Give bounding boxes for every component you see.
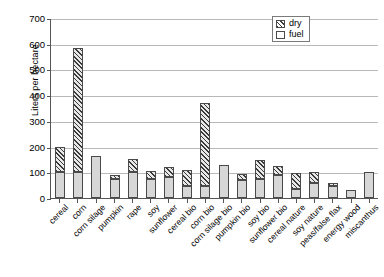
bar-segment-dry [73, 48, 83, 173]
bar-slot [360, 19, 378, 198]
bar-segment-fuel [364, 172, 374, 198]
bar-segment-dry [291, 173, 301, 189]
y-axis-tick-label: 500 [29, 65, 45, 75]
y-axis-tick-label: 600 [29, 40, 45, 50]
x-axis-tick-label: rape [125, 203, 144, 222]
plot-area: 0100200300400500600700 [50, 19, 378, 199]
bar-segment-dry [309, 172, 319, 182]
bar-segment-fuel [219, 165, 229, 198]
y-axis-tick-label: 100 [29, 168, 45, 178]
bar-slot [51, 19, 69, 198]
bar-slot [124, 19, 142, 198]
stacked-bar[interactable] [328, 183, 338, 198]
bar-segment-dry [55, 147, 65, 172]
bar-slot [269, 19, 287, 198]
bar-slot [324, 19, 342, 198]
bar-segment-fuel [237, 180, 247, 199]
bar-segment-fuel [182, 186, 192, 198]
bar-slot [287, 19, 305, 198]
bar-segment-dry [128, 159, 138, 172]
stacked-bar[interactable] [309, 172, 319, 198]
bar-segment-fuel [291, 189, 301, 198]
bar-segment-dry [255, 160, 265, 179]
stacked-bar[interactable] [255, 160, 265, 198]
bar-segment-dry [200, 103, 210, 187]
legend-label-fuel: fuel [289, 30, 304, 39]
bar-segment-fuel [309, 183, 319, 198]
bar-slot [178, 19, 196, 198]
bar-series-container [51, 19, 378, 198]
y-axis-tick-label: 400 [29, 91, 45, 101]
legend-item-dry: dry [276, 19, 304, 28]
legend-swatch-fuel-icon [276, 31, 285, 39]
stacked-bar[interactable] [91, 156, 101, 198]
stacked-bar[interactable] [200, 103, 210, 198]
bar-slot [87, 19, 105, 198]
stacked-bar[interactable] [273, 166, 283, 198]
bar-segment-fuel [128, 172, 138, 198]
legend-item-fuel: fuel [276, 30, 304, 39]
bar-segment-fuel [255, 179, 265, 198]
bar-slot [342, 19, 360, 198]
y-axis-title: Liters per hectare [30, 0, 40, 160]
stacked-bar[interactable] [146, 171, 156, 199]
stacked-bar[interactable] [128, 159, 138, 198]
stacked-bar[interactable] [164, 167, 174, 198]
bar-segment-fuel [346, 190, 356, 198]
legend-label-dry: dry [289, 19, 302, 28]
bar-slot [196, 19, 214, 198]
bar-segment-fuel [200, 186, 210, 198]
bar-slot [160, 19, 178, 198]
bar-segment-dry [182, 170, 192, 187]
bar-segment-fuel [91, 156, 101, 198]
legend-swatch-dry-icon [276, 20, 285, 28]
bar-segment-fuel [328, 186, 338, 198]
bar-segment-fuel [146, 179, 156, 198]
bar-segment-fuel [73, 172, 83, 198]
bar-segment-fuel [55, 172, 65, 198]
x-axis-labels: cerealcorncorn silagepumpkinrapesoysunfl… [50, 203, 378, 277]
bar-segment-dry [164, 167, 174, 177]
bar-segment-fuel [164, 177, 174, 198]
stacked-bar[interactable] [55, 147, 65, 198]
stacked-bar[interactable] [237, 174, 247, 198]
y-axis-tick-label: 0 [40, 194, 45, 204]
stacked-bar[interactable] [182, 170, 192, 198]
bar-slot [106, 19, 124, 198]
stacked-bar[interactable] [291, 173, 301, 198]
bar-slot [233, 19, 251, 198]
bar-chart-figure: Liters per hectare 010020030040050060070… [0, 0, 384, 277]
bar-slot [305, 19, 323, 198]
x-axis-tick-label: cereal [48, 203, 71, 226]
y-axis-tick-label: 300 [29, 117, 45, 127]
bar-slot [69, 19, 87, 198]
stacked-bar[interactable] [110, 175, 120, 198]
stacked-bar[interactable] [346, 190, 356, 198]
bar-slot [142, 19, 160, 198]
bar-segment-dry [273, 166, 283, 176]
bar-segment-fuel [273, 175, 283, 198]
bar-slot [215, 19, 233, 198]
y-axis-tick-label: 200 [29, 143, 45, 153]
y-axis-tick-label: 700 [29, 14, 45, 24]
chart-legend: dry fuel [272, 16, 310, 42]
bar-segment-fuel [110, 179, 120, 198]
bar-segment-dry [146, 171, 156, 179]
stacked-bar[interactable] [73, 48, 83, 198]
stacked-bar[interactable] [219, 165, 229, 198]
bar-slot [251, 19, 269, 198]
stacked-bar[interactable] [364, 172, 374, 198]
